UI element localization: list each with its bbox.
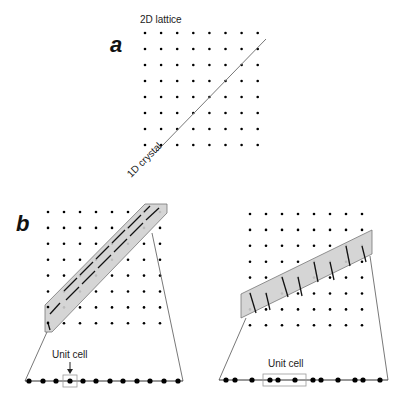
- arrow-head-icon: [67, 369, 73, 374]
- panel-a-line-label: 1D crystal: [125, 140, 164, 179]
- panel-b-left-projection-left: [25, 332, 47, 381]
- panel-b-label: b: [16, 211, 29, 236]
- panel-a-title: 2D lattice: [140, 14, 182, 25]
- panel-a-dot-grid: [144, 32, 259, 147]
- panel-b-left-projection-right: [152, 233, 183, 381]
- lattice-figure: a 2D lattice 1D crystal b Unit cell Unit…: [0, 0, 406, 401]
- panel-b-right-projection-right: [370, 256, 388, 380]
- panel-a-crystal-line: [162, 39, 266, 146]
- panel-b-right-projection-left: [219, 318, 246, 380]
- panel-b-left-unit-cell-label: Unit cell: [52, 349, 88, 360]
- panel-b-left-band: [45, 204, 167, 332]
- panel-a-label: a: [110, 32, 122, 57]
- panel-b-right-unit-cell-label: Unit cell: [268, 358, 304, 369]
- panel-b-right-band: [241, 230, 372, 318]
